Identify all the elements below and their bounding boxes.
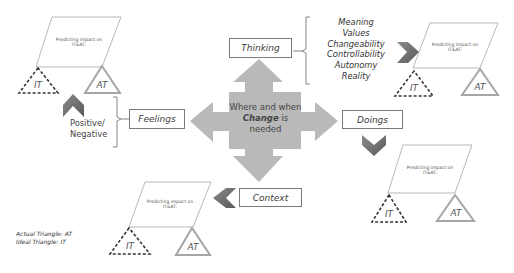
chevron-down-icon — [362, 135, 386, 156]
legend-ideal: Ideal Triangle: IT — [16, 238, 72, 246]
actual-triangle-label: AT — [444, 208, 468, 218]
ideal-triangle-label: IT — [402, 83, 426, 93]
legend-actual: Actual Triangle: AT — [16, 230, 72, 238]
actual-triangle-label: AT — [181, 242, 205, 252]
thinking-bracket — [302, 17, 310, 84]
feelings-label: Feelings — [138, 114, 175, 124]
impact-text-bottom-right: Predicting impact on IT&AT: — [405, 165, 455, 175]
thinking-label: Thinking — [241, 43, 280, 53]
feelings-box: Feelings — [129, 109, 185, 129]
center-text-before: Where and when — [230, 102, 302, 112]
impact-text-top-right: Predicting impact on IT&AT: — [430, 42, 480, 52]
ideal-triangle-label: IT — [118, 241, 142, 251]
aspect-changeability: Changeability — [318, 39, 394, 50]
impact-text-bottom: Predicting impact on IT&AT: — [145, 199, 195, 209]
diagram-canvas: Where and when Change is needed Thinking… — [0, 0, 514, 273]
feelings-aspect: Positive/ Negative — [70, 118, 114, 140]
actual-triangle-label: AT — [90, 80, 114, 90]
doings-box: Doings — [342, 110, 403, 129]
aspect-meaning: Meaning — [318, 17, 394, 28]
context-label: Context — [253, 193, 288, 203]
chevron-left-icon — [213, 188, 236, 208]
ideal-triangle-label: IT — [377, 209, 401, 219]
aspect-values: Values — [318, 28, 394, 39]
thinking-aspects-list: Meaning Values Changeability Controllabi… — [318, 17, 394, 82]
center-label: Where and when Change is needed — [229, 102, 302, 135]
aspect-reality: Reality — [318, 71, 394, 82]
impact-text-top-left: Predicting impact on IT&AT: — [54, 37, 104, 47]
ideal-triangle-label: IT — [26, 80, 50, 90]
chevron-right-icon — [397, 42, 419, 63]
legend: Actual Triangle: AT Ideal Triangle: IT — [16, 230, 72, 245]
actual-triangle-label: AT — [468, 82, 492, 92]
doings-label: Doings — [357, 115, 388, 125]
aspect-controllability: Controllability — [318, 49, 394, 60]
feelings-bracket — [113, 97, 121, 147]
aspect-autonomy: Autonomy — [318, 60, 394, 71]
center-text-emphasis: Change — [243, 113, 279, 123]
chevron-up-icon — [63, 94, 84, 117]
thinking-box: Thinking — [229, 38, 292, 58]
context-box: Context — [239, 188, 302, 207]
